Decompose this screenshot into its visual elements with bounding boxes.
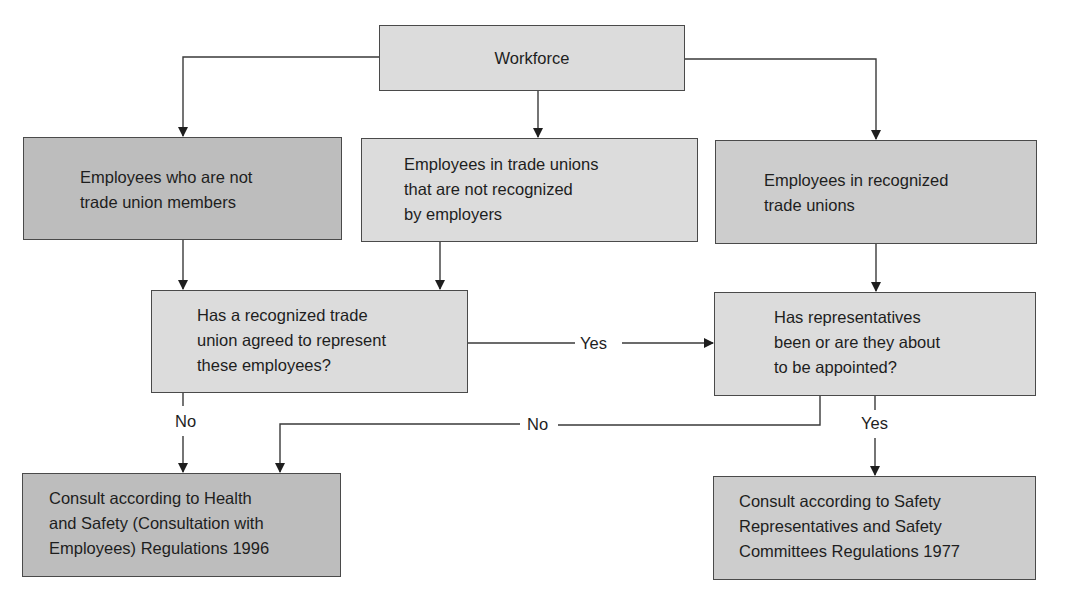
edge-label-q2-yes: Yes	[857, 413, 892, 433]
outcome-1977-node: Consult according to Safety Representati…	[713, 476, 1036, 580]
unrecognized-unions-node: Employees in trade unions that are not r…	[361, 138, 698, 242]
edge-label-q1-yes: Yes	[576, 333, 611, 353]
question-representatives-label: Has representatives been or are they abo…	[774, 305, 940, 380]
outcome-1996-label: Consult according to Health and Safety (…	[49, 486, 269, 561]
recognized-unions-label: Employees in recognized trade unions	[764, 168, 948, 218]
question-union-agreed-node: Has a recognized trade union agreed to r…	[151, 290, 468, 393]
question-representatives-node: Has representatives been or are they abo…	[714, 292, 1036, 396]
workforce-node: Workforce	[379, 25, 685, 91]
outcome-1977-label: Consult according to Safety Representati…	[739, 489, 960, 564]
edge-label-q1-no: No	[171, 411, 200, 431]
outcome-1996-node: Consult according to Health and Safety (…	[22, 473, 341, 577]
edge-label-q2-no: No	[523, 414, 552, 434]
unrecognized-unions-label: Employees in trade unions that are not r…	[404, 152, 598, 227]
recognized-unions-node: Employees in recognized trade unions	[715, 140, 1037, 244]
question-union-agreed-label: Has a recognized trade union agreed to r…	[197, 303, 386, 378]
non-members-node: Employees who are not trade union member…	[23, 137, 342, 240]
workforce-label: Workforce	[380, 46, 684, 71]
non-members-label: Employees who are not trade union member…	[80, 165, 252, 215]
